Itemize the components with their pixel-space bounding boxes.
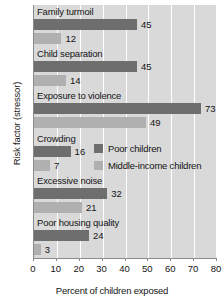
- bar-group: Exposure to violence7349: [34, 90, 216, 132]
- x-tick-label-0: 0: [30, 263, 35, 274]
- legend-label-middle-income-children: Middle-income children: [108, 160, 201, 171]
- bar-value-label: 21: [86, 202, 97, 213]
- legend-label-poor-children: Poor children: [108, 143, 161, 154]
- bar-value-label: 45: [141, 61, 152, 72]
- legend-item-middle-income-children: Middle-income children: [94, 160, 201, 171]
- x-tick-50: [147, 258, 148, 261]
- x-tick-10: [56, 258, 57, 261]
- bar-poor: [34, 188, 107, 199]
- x-tick-30: [102, 258, 103, 261]
- bar-value-label: 12: [65, 33, 76, 44]
- x-tick-label-60: 60: [165, 263, 176, 274]
- bar-chart-figure: Risk factor (stressor) Family turmoil451…: [0, 0, 224, 306]
- x-tick-20: [79, 258, 80, 261]
- bar-value-label: 49: [150, 117, 161, 128]
- bar-poor: [34, 19, 137, 30]
- x-tick-label-20: 20: [73, 263, 84, 274]
- y-axis-title: Risk factor (stressor): [11, 24, 22, 224]
- x-tick-label-30: 30: [96, 263, 107, 274]
- bar-value-label: 3: [45, 244, 50, 255]
- bar-middle: [34, 75, 66, 86]
- x-tick-label-50: 50: [142, 263, 153, 274]
- x-tick-40: [125, 258, 126, 261]
- bar-middle: [34, 33, 61, 44]
- x-tick-70: [193, 258, 194, 261]
- x-tick-label-80: 80: [211, 263, 222, 274]
- x-tick-60: [170, 258, 171, 261]
- bar-value-label: 16: [75, 146, 86, 157]
- category-label: Family turmoil: [37, 6, 93, 17]
- bar-value-label: 45: [141, 19, 152, 30]
- bar-value-label: 24: [93, 230, 104, 241]
- bar-middle: [34, 160, 50, 171]
- x-axis-title: Percent of children exposed: [0, 285, 224, 296]
- gridline-80: [217, 5, 218, 258]
- legend-swatch-poor-children: [94, 144, 103, 153]
- legend-swatch-middle-income-children: [94, 161, 103, 170]
- category-label: Crowding: [37, 133, 76, 144]
- chart-legend: Poor children Middle-income children: [94, 143, 201, 177]
- bar-group: Excessive noise3221: [34, 175, 216, 217]
- bar-group: Family turmoil4512: [34, 6, 216, 48]
- bar-poor: [34, 230, 89, 241]
- x-tick-0: [33, 258, 34, 261]
- category-label: Exposure to violence: [37, 90, 121, 101]
- bar-middle: [34, 244, 41, 255]
- bar-poor: [34, 103, 201, 114]
- bar-group: Child separation4514: [34, 48, 216, 90]
- category-label: Excessive noise: [37, 175, 102, 186]
- bar-middle: [34, 202, 82, 213]
- bar-value-label: 7: [54, 160, 59, 171]
- category-label: Child separation: [37, 48, 102, 59]
- plot-area: Family turmoil4512Child separation4514Ex…: [33, 5, 216, 258]
- bar-middle: [34, 117, 146, 128]
- bar-value-label: 73: [205, 103, 216, 114]
- bar-value-label: 14: [70, 75, 81, 86]
- x-tick-label-10: 10: [51, 263, 62, 274]
- x-tick-80: [216, 258, 217, 261]
- x-tick-label-40: 40: [119, 263, 130, 274]
- legend-item-poor-children: Poor children: [94, 143, 201, 154]
- bar-group: Poor housing quality243: [34, 217, 216, 259]
- x-tick-label-70: 70: [188, 263, 199, 274]
- bar-poor: [34, 61, 137, 72]
- bar-poor: [34, 146, 71, 157]
- bar-value-label: 32: [111, 188, 122, 199]
- category-label: Poor housing quality: [37, 217, 119, 228]
